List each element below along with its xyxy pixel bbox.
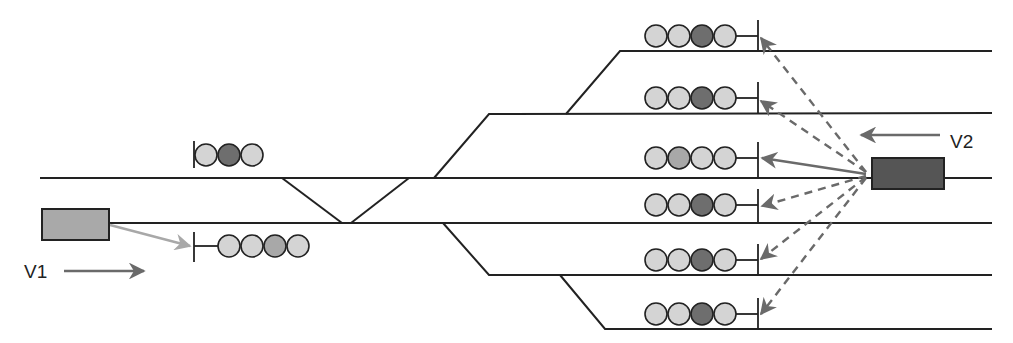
lamp-off bbox=[691, 147, 713, 169]
signal-track-2 bbox=[645, 82, 758, 113]
lamp-off bbox=[645, 147, 667, 169]
lamp-dark bbox=[218, 144, 240, 166]
lamp-off bbox=[287, 235, 309, 257]
lamp-off bbox=[714, 249, 736, 271]
v2-label: V2 bbox=[950, 131, 973, 152]
lamp-off bbox=[714, 194, 736, 216]
lamp-off bbox=[241, 235, 263, 257]
train-v1[interactable] bbox=[42, 209, 109, 240]
lamp-mid bbox=[668, 147, 690, 169]
lamp-dark bbox=[691, 194, 713, 216]
signal-track-1 bbox=[645, 20, 758, 51]
route-arrow-track-4 bbox=[762, 176, 866, 206]
lamp-off bbox=[714, 25, 736, 47]
lamp-off bbox=[714, 147, 736, 169]
track-platform-6 bbox=[560, 275, 992, 329]
lamp-off bbox=[668, 25, 690, 47]
lamp-dark bbox=[691, 303, 713, 325]
route-arrow-track-1 bbox=[761, 38, 866, 172]
lamp-dark bbox=[691, 87, 713, 109]
lamp-off bbox=[645, 87, 667, 109]
lamp-off bbox=[645, 25, 667, 47]
lamp-off bbox=[241, 144, 263, 166]
v1-label: V1 bbox=[24, 261, 47, 282]
lamp-off bbox=[218, 235, 240, 257]
signal-track-5 bbox=[645, 244, 758, 275]
lamp-off bbox=[668, 249, 690, 271]
lamp-off bbox=[714, 303, 736, 325]
lamp-off bbox=[668, 87, 690, 109]
crossover-left bbox=[282, 178, 342, 223]
signal-left-upper bbox=[194, 141, 263, 168]
railway-diagram: V1 V2 bbox=[0, 0, 1013, 343]
lamp-off bbox=[668, 303, 690, 325]
lamp-off bbox=[645, 249, 667, 271]
lamp-mid bbox=[264, 235, 286, 257]
v2-route-arrows bbox=[761, 38, 866, 314]
crossover-right bbox=[351, 178, 409, 223]
train-v2[interactable] bbox=[872, 158, 944, 189]
signal-track-4 bbox=[645, 189, 758, 223]
lamp-off bbox=[195, 144, 217, 166]
lamp-off bbox=[645, 194, 667, 216]
lamp-dark bbox=[691, 25, 713, 47]
signal-left-lower bbox=[194, 232, 309, 262]
signal-track-6 bbox=[645, 298, 758, 329]
lamp-off bbox=[714, 87, 736, 109]
lamp-dark bbox=[691, 249, 713, 271]
lamp-off bbox=[645, 303, 667, 325]
signal-track-3 bbox=[645, 142, 758, 178]
route-arrow-v1 bbox=[110, 225, 190, 246]
lamp-off bbox=[668, 194, 690, 216]
